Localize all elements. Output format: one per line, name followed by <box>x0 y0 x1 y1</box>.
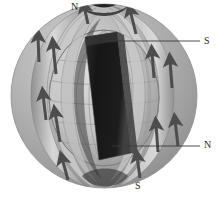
sphere-diagram-svg <box>0 0 222 207</box>
pole-label-n-top: N <box>71 2 79 12</box>
pole-label-n-right: N <box>204 140 212 150</box>
field-arrow <box>170 60 172 88</box>
field-arrow <box>156 124 158 152</box>
field-arrow <box>38 36 39 62</box>
pole-label-s-right: S <box>204 36 210 46</box>
pole-label-s-bottom: S <box>135 181 141 191</box>
magnetic-sphere-figure: N S N S <box>0 0 222 207</box>
field-arrow <box>152 52 154 78</box>
